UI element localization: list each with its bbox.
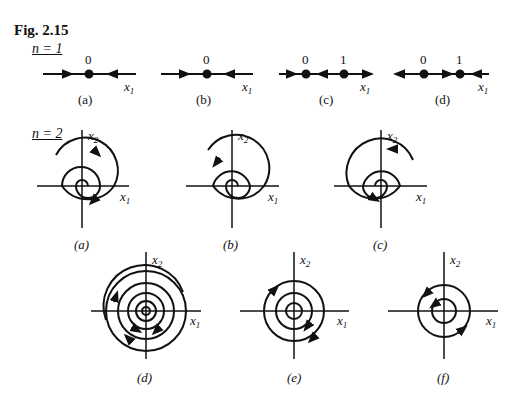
svg-text:x2: x2 bbox=[386, 128, 398, 145]
svg-text:x2: x2 bbox=[151, 252, 163, 269]
svg-text:(a): (a) bbox=[74, 237, 89, 252]
svg-text:x1: x1 bbox=[241, 79, 252, 96]
svg-text:(c): (c) bbox=[319, 92, 333, 107]
fixed-point-0 bbox=[86, 71, 93, 78]
svg-text:(f): (f) bbox=[437, 370, 449, 385]
svg-text:x2: x2 bbox=[87, 128, 99, 145]
svg-text:(b): (b) bbox=[223, 237, 238, 252]
svg-text:x1: x1 bbox=[477, 79, 488, 96]
svg-text:0: 0 bbox=[85, 52, 92, 67]
phase-portraits: 00 01 01 x1 x1 x1 x1 (a)(b) (c)(d) x2 x1… bbox=[0, 0, 513, 404]
svg-text:(b): (b) bbox=[196, 92, 211, 107]
svg-text:x1: x1 bbox=[485, 313, 496, 330]
svg-text:x2: x2 bbox=[299, 252, 311, 269]
svg-text:0: 0 bbox=[420, 52, 427, 67]
svg-text:x1: x1 bbox=[123, 79, 134, 96]
svg-text:(e): (e) bbox=[287, 370, 301, 385]
svg-text:x2: x2 bbox=[237, 128, 249, 145]
svg-text:x1: x1 bbox=[189, 313, 200, 330]
svg-text:1: 1 bbox=[456, 52, 463, 67]
svg-text:x1: x1 bbox=[415, 189, 426, 206]
svg-text:0: 0 bbox=[302, 52, 309, 67]
svg-text:0: 0 bbox=[203, 52, 210, 67]
svg-text:x1: x1 bbox=[336, 313, 347, 330]
svg-text:x1: x1 bbox=[267, 189, 278, 206]
svg-text:(c): (c) bbox=[373, 237, 387, 252]
svg-text:x1: x1 bbox=[119, 189, 130, 206]
svg-text:(d): (d) bbox=[435, 92, 450, 107]
svg-text:x2: x2 bbox=[449, 252, 461, 269]
svg-text:(d): (d) bbox=[137, 370, 152, 385]
svg-text:x1: x1 bbox=[359, 79, 370, 96]
svg-text:1: 1 bbox=[340, 52, 347, 67]
svg-text:(a): (a) bbox=[78, 92, 92, 107]
